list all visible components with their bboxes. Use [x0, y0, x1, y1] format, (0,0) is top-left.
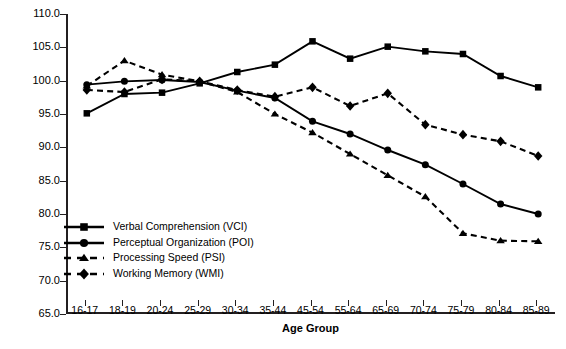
data-point [459, 180, 466, 187]
x-axis-tick-mark [273, 300, 274, 306]
y-axis-tick-label: 80.0 [10, 208, 60, 219]
data-point [497, 73, 504, 80]
x-axis-tick-label: 85-89 [506, 305, 566, 316]
y-axis-tick-label: 105.0 [10, 41, 60, 52]
data-point [535, 84, 542, 91]
data-point [496, 137, 504, 147]
x-axis-tick-mark [160, 300, 161, 306]
x-axis-tick-mark [386, 300, 387, 306]
y-axis-tick-label: 100.0 [10, 75, 60, 86]
series-diamond [83, 75, 543, 161]
legend-symbol-triangle-icon [62, 250, 106, 266]
chart-legend: Verbal Comprehension (VCI)Perceptual Org… [62, 219, 254, 281]
y-axis-tick-mark [60, 14, 66, 15]
legend-symbol-circle-icon [62, 235, 106, 251]
y-axis-tick-label: 65.0 [10, 308, 60, 319]
data-point [308, 83, 316, 93]
series-line [87, 80, 538, 214]
x-axis-tick-mark [499, 300, 500, 306]
y-axis-tick-label: 110.0 [10, 8, 60, 19]
legend-label: Processing Speed (PSI) [113, 250, 225, 266]
y-axis-tick-mark [60, 214, 66, 215]
y-axis-tick-mark [60, 47, 66, 48]
legend-item-diamond: Working Memory (WMI) [62, 266, 254, 282]
legend-label: Verbal Comprehension (VCI) [113, 219, 247, 235]
x-axis-tick-mark [423, 300, 424, 306]
y-axis-tick-label: 95.0 [10, 108, 60, 119]
series-square [84, 38, 542, 117]
legend-item-square: Verbal Comprehension (VCI) [62, 219, 254, 235]
y-axis-tick-mark [60, 81, 66, 82]
data-point [422, 48, 429, 55]
legend-symbol-diamond-icon [62, 266, 106, 282]
data-point [121, 78, 128, 85]
legend-item-circle: Perceptual Organization (POI) [62, 235, 254, 251]
y-axis-tick-mark [60, 114, 66, 115]
series-circle [83, 76, 541, 217]
data-point [497, 200, 504, 207]
data-point [234, 69, 241, 76]
legend-item-triangle: Processing Speed (PSI) [62, 250, 254, 266]
y-axis-tick-mark [60, 181, 66, 182]
legend-label: Perceptual Organization (POI) [113, 235, 254, 251]
y-axis-tick-mark [60, 147, 66, 148]
x-axis-tick-mark [311, 300, 312, 306]
data-point [422, 161, 429, 168]
legend-symbol-square-icon [62, 219, 106, 235]
y-axis-tick-label: 85.0 [10, 175, 60, 186]
data-point [421, 193, 430, 199]
data-point [384, 43, 391, 50]
data-point [271, 110, 280, 116]
data-point [272, 61, 279, 68]
y-axis-tick-label: 75.0 [10, 241, 60, 252]
data-point [83, 85, 91, 95]
x-axis-tick-mark [235, 300, 236, 306]
data-point [120, 57, 129, 63]
y-axis-tick-label: 70.0 [10, 275, 60, 286]
data-point [459, 130, 467, 140]
x-axis-tick-mark [198, 300, 199, 306]
chart-figure: WAIS-III Educ. Adjusted Index 65.070.075… [0, 0, 566, 349]
data-point [84, 110, 91, 117]
data-point [535, 210, 542, 217]
x-axis-tick-mark [85, 300, 86, 306]
data-point [309, 38, 316, 45]
x-axis-tick-mark [122, 300, 123, 306]
x-axis-tick-mark [348, 300, 349, 306]
data-point [384, 146, 391, 153]
data-point [534, 151, 542, 161]
x-axis-tick-mark [461, 300, 462, 306]
data-point [309, 118, 316, 125]
x-axis-title: Age Group [66, 322, 555, 334]
data-point [347, 55, 354, 62]
series-line [87, 41, 538, 113]
data-point [346, 101, 354, 111]
data-point [421, 120, 429, 130]
data-point [159, 89, 166, 96]
data-point [460, 51, 467, 58]
x-axis-tick-mark [536, 300, 537, 306]
data-point [347, 130, 354, 137]
y-axis-tick-label: 90.0 [10, 141, 60, 152]
legend-label: Working Memory (WMI) [113, 266, 224, 282]
figure-caption [66, 339, 555, 349]
